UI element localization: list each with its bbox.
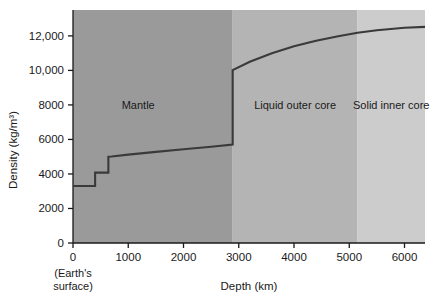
x-axis-tick-label: 6000 <box>392 251 418 263</box>
x-axis-tick-label: 3000 <box>226 251 252 263</box>
density-depth-chart: 0200040006000800010,00012,000 0100020003… <box>0 0 438 307</box>
earth-surface-note-line2: surface) <box>53 280 93 292</box>
y-axis-tick-label: 12,000 <box>29 30 64 42</box>
x-axis: 0100020003000400050006000 <box>70 243 418 263</box>
x-axis-tick-label: 2000 <box>171 251 197 263</box>
region-band <box>358 10 425 243</box>
y-axis-tick-label: 8000 <box>38 99 64 111</box>
y-axis: 0200040006000800010,00012,000 <box>29 30 73 249</box>
y-axis-tick-label: 0 <box>58 237 64 249</box>
region-label: Liquid outer core <box>254 99 336 111</box>
y-axis-tick-label: 6000 <box>38 133 64 145</box>
y-axis-title: Density (kg/m³) <box>7 111 19 189</box>
y-axis-tick-label: 10,000 <box>29 64 64 76</box>
region-label: Solid inner core <box>353 99 429 111</box>
region-bands <box>73 10 425 243</box>
earth-surface-note-line1: (Earth's <box>54 267 92 279</box>
chart-canvas: 0200040006000800010,00012,000 0100020003… <box>0 0 438 307</box>
x-axis-tick-label: 0 <box>70 251 76 263</box>
y-axis-tick-label: 4000 <box>38 168 64 180</box>
x-axis-tick-label: 5000 <box>336 251 362 263</box>
y-axis-tick-label: 2000 <box>38 202 64 214</box>
region-band <box>73 10 233 243</box>
x-axis-tick-label: 1000 <box>115 251 141 263</box>
x-axis-title: Depth (km) <box>221 280 278 292</box>
x-axis-tick-label: 4000 <box>281 251 307 263</box>
region-label: Mantle <box>122 99 155 111</box>
